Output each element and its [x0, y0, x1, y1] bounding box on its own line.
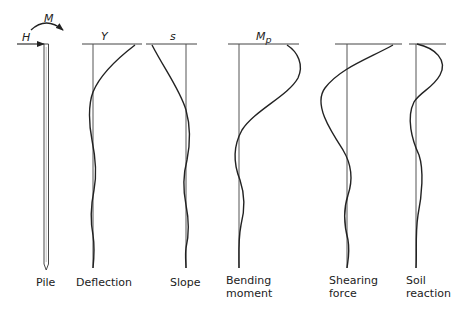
label-shearing-1: Shearing [329, 274, 378, 287]
shearing-force-curve [321, 45, 393, 268]
label-soil-2: reaction [406, 287, 451, 300]
horizontal-force-label: H [22, 31, 30, 44]
deflection-panel: Y [82, 30, 142, 268]
panel-labels: Pile Deflection Slope Bending moment She… [36, 274, 451, 300]
load-group: M H [17, 12, 63, 44]
label-shearing-2: force [329, 287, 357, 300]
label-bending-2: moment [226, 287, 273, 300]
soil-reaction-panel [409, 44, 446, 268]
slope-symbol: s [170, 30, 176, 43]
deflection-symbol: Y [101, 30, 109, 43]
bending-moment-curve [235, 45, 300, 268]
slope-panel: s [146, 30, 197, 268]
label-slope: Slope [170, 276, 201, 289]
bending-moment-symbol: Mp [256, 30, 272, 45]
pile-diagram: M H Y s Mp Pile [0, 0, 464, 312]
soil-reaction-curve [410, 44, 442, 268]
label-soil-1: Soil [406, 274, 426, 287]
label-bending-1: Bending [226, 274, 271, 287]
pile-panel [44, 44, 49, 270]
label-pile: Pile [36, 276, 56, 289]
slope-curve [152, 45, 190, 268]
deflection-curve [90, 45, 136, 268]
shearing-force-panel [321, 44, 402, 268]
label-deflection: Deflection [76, 276, 132, 289]
bending-moment-panel: Mp [228, 30, 300, 268]
